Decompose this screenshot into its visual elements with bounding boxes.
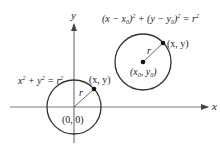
- shifted-point-marker: [161, 41, 166, 46]
- origin-radius-line: [74, 89, 94, 107]
- x-axis-label: x: [211, 100, 217, 112]
- origin-center-label: (0, 0): [62, 114, 84, 126]
- shifted-radius-line: [143, 43, 163, 62]
- shifted-equation: (x − x0)2 + (y − y0)2 = r2: [102, 13, 199, 25]
- origin-circle-group: r (x, y) (0, 0) x2 + y2 = r2: [17, 74, 111, 134]
- shifted-point-label: (x, y): [167, 38, 189, 50]
- shifted-circle-group: r (x, y) (x0, y0) (x − x0)2 + (y − y0)2 …: [102, 13, 199, 90]
- origin-equation: x2 + y2 = r2: [17, 75, 63, 86]
- y-axis-label: y: [70, 9, 76, 21]
- shifted-center-marker: [141, 60, 146, 65]
- origin-point-marker: [92, 87, 97, 92]
- origin-point-label: (x, y): [89, 74, 111, 86]
- origin-radius-label: r: [79, 87, 83, 98]
- circle-equations-diagram: x y r (x, y) (0, 0) x2 + y2 = r2 r (x, y…: [0, 0, 220, 145]
- shifted-center-label: (x0, y0): [130, 66, 157, 78]
- shifted-radius-label: r: [147, 45, 151, 56]
